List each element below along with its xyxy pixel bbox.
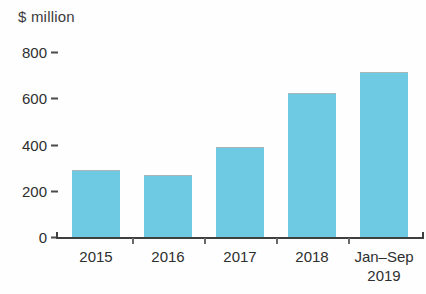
bar-slot	[72, 52, 119, 237]
y-axis-title: $ million	[18, 8, 75, 25]
x-axis-category-label-line: 2015	[79, 248, 112, 265]
x-axis-category-label: 2016	[132, 247, 204, 266]
y-axis-tick-dash	[51, 190, 58, 192]
bar-series	[60, 52, 420, 237]
y-axis-tick-dash	[51, 98, 58, 100]
bar	[144, 175, 191, 237]
x-axis-left-cap	[56, 232, 58, 238]
x-axis-category-label-line: 2019	[348, 266, 420, 285]
y-axis-tick: 600	[22, 90, 58, 107]
y-axis-tick-label: 200	[22, 182, 47, 199]
bar	[72, 170, 119, 237]
x-axis-category-label: 2018	[276, 247, 348, 266]
bar-chart: $ million 8006004002000 2015201620172018…	[0, 0, 426, 294]
y-axis-tick-label: 0	[39, 229, 47, 246]
x-axis-minor-tick	[348, 238, 350, 244]
bar-slot	[216, 52, 263, 237]
y-axis-tick: 400	[22, 136, 58, 153]
x-axis-category-label-line: 2016	[151, 248, 184, 265]
y-axis-tick: 200	[22, 182, 58, 199]
bar	[360, 72, 407, 237]
bar	[288, 93, 335, 237]
bar-slot	[144, 52, 191, 237]
x-axis-category-label: 2017	[204, 247, 276, 266]
x-axis-baseline	[56, 237, 424, 239]
x-axis-category-label: 2015	[60, 247, 132, 266]
x-axis-minor-tick	[276, 238, 278, 244]
x-axis-category-labels: 2015201620172018Jan–Sep2019	[60, 247, 420, 293]
bar	[216, 147, 263, 237]
y-axis-tick-label: 600	[22, 90, 47, 107]
x-axis-right-cap	[422, 232, 424, 238]
y-axis-tick-labels: 8006004002000	[0, 52, 58, 238]
x-axis-minor-tick	[132, 238, 134, 244]
x-axis-category-label-line: 2017	[223, 248, 256, 265]
y-axis-tick-dash	[51, 52, 58, 54]
y-axis-tick-label: 800	[22, 44, 47, 61]
x-axis-category-label-line: 2018	[295, 248, 328, 265]
y-axis-tick-dash	[51, 144, 58, 146]
y-axis-tick-label: 400	[22, 136, 47, 153]
x-axis-category-label-line: Jan–Sep	[354, 248, 413, 265]
bar-slot	[288, 52, 335, 237]
bar-slot	[360, 52, 407, 237]
y-axis-tick: 800	[22, 44, 58, 61]
x-axis-minor-tick	[204, 238, 206, 244]
x-axis-category-label: Jan–Sep2019	[348, 247, 420, 285]
